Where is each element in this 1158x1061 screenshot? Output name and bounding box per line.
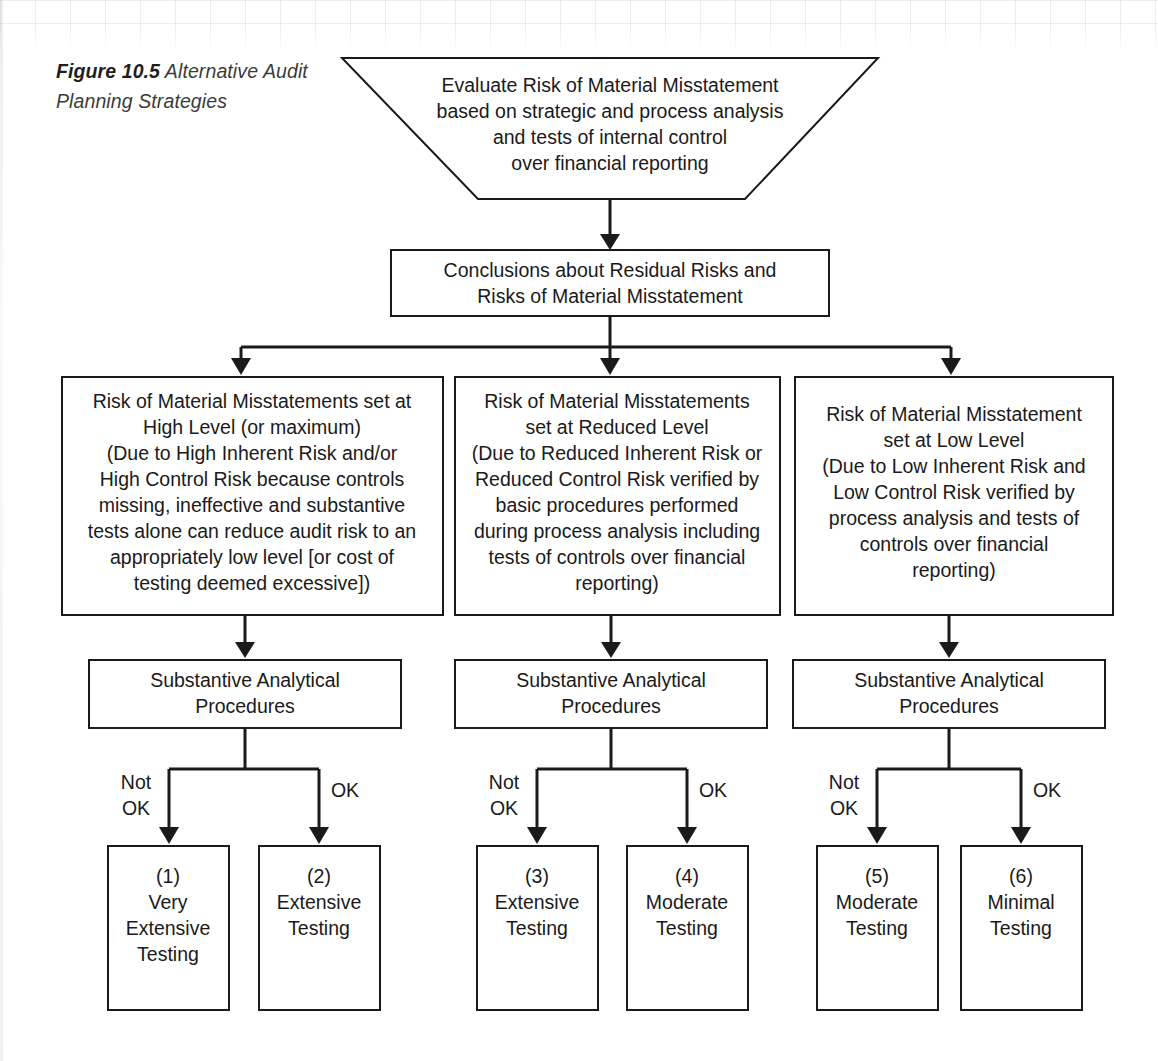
middle-not-ok-line-1: Not <box>489 771 520 793</box>
node-sap-right: Substantive Analytical Procedures <box>793 660 1105 728</box>
connector-sap-left-split <box>159 728 329 844</box>
outcome-6-line-3: Testing <box>990 917 1052 939</box>
arrowhead-down-icon <box>235 642 255 658</box>
arrowhead-down-icon <box>941 358 961 375</box>
node-risk-low: Risk of Material Misstatement set at Low… <box>795 377 1113 615</box>
branch-label-right-ok: OK <box>1033 779 1061 801</box>
outcome-2-number: (2) <box>307 865 331 887</box>
figure-canvas: Figure 10.5 Alternative Audit Planning S… <box>0 0 1158 1061</box>
connector-sap-right-split <box>867 728 1031 844</box>
risk-reduced-line-3: (Due to Reduced Inherent Risk or <box>472 442 763 464</box>
sap-left-line-2: Procedures <box>195 695 295 717</box>
risk-low-line-3: (Due to Low Inherent Risk and <box>822 455 1085 477</box>
connector-risk-high-to-sap-left <box>235 615 255 658</box>
arrowhead-down-icon <box>527 827 547 844</box>
sap-left-line-1: Substantive Analytical <box>150 669 340 691</box>
arrowhead-down-icon <box>867 827 887 844</box>
node-evaluate-risk: Evaluate Risk of Material Misstatement b… <box>342 58 878 199</box>
branch-label-middle-not-ok: Not OK <box>489 771 520 819</box>
branch-label-left-not-ok: Not OK <box>121 771 152 819</box>
branch-label-middle-ok: OK <box>699 779 727 801</box>
outcome-1-line-4: Testing <box>137 943 199 965</box>
risk-reduced-line-4: Reduced Control Risk verified by <box>475 468 759 490</box>
node-sap-left: Substantive Analytical Procedures <box>89 660 401 728</box>
risk-high-line-1: Risk of Material Misstatements set at <box>93 390 412 412</box>
connector-risk-low-to-sap-right <box>939 615 959 658</box>
conclusions-line-2: Risks of Material Misstatement <box>477 285 743 307</box>
branch-label-right-not-ok: Not OK <box>829 771 860 819</box>
arrowhead-down-icon <box>600 358 620 375</box>
node-outcome-4: (4) Moderate Testing <box>627 846 748 1010</box>
middle-not-ok-line-2: OK <box>490 797 518 819</box>
arrowhead-down-icon <box>600 234 620 250</box>
risk-high-line-6: tests alone can reduce audit risk to an <box>88 520 416 542</box>
outcome-1-number: (1) <box>156 865 180 887</box>
connector-sap-middle-split <box>527 728 697 844</box>
arrowhead-down-icon <box>601 642 621 658</box>
branch-label-left-ok: OK <box>331 779 359 801</box>
right-not-ok-line-1: Not <box>829 771 860 793</box>
risk-reduced-line-2: set at Reduced Level <box>525 416 708 438</box>
connector-risk-reduced-to-sap-middle <box>601 615 621 658</box>
risk-high-line-5: missing, ineffective and substantive <box>99 494 405 516</box>
risk-reduced-line-7: tests of controls over financial <box>489 546 746 568</box>
node-outcome-5: (5) Moderate Testing <box>817 846 938 1010</box>
evaluate-risk-line-2: based on strategic and process analysis <box>437 100 784 122</box>
risk-reduced-line-1: Risk of Material Misstatements <box>484 390 750 412</box>
risk-low-line-7: reporting) <box>912 559 995 581</box>
sap-middle-line-1: Substantive Analytical <box>516 669 706 691</box>
outcome-2-line-2: Extensive <box>277 891 362 913</box>
outcome-3-number: (3) <box>525 865 549 887</box>
risk-high-line-7: appropriately low level [or cost of <box>110 546 395 568</box>
risk-low-line-4: Low Control Risk verified by <box>833 481 1075 503</box>
flowchart-svg: Evaluate Risk of Material Misstatement b… <box>0 0 1158 1061</box>
risk-low-line-6: controls over financial <box>860 533 1049 555</box>
risk-low-line-5: process analysis and tests of <box>829 507 1080 529</box>
sap-right-line-1: Substantive Analytical <box>854 669 1044 691</box>
outcome-2-line-3: Testing <box>288 917 350 939</box>
outcome-6-line-2: Minimal <box>987 891 1054 913</box>
arrowhead-down-icon <box>1011 827 1031 844</box>
node-risk-high: Risk of Material Misstatements set at Hi… <box>62 377 443 615</box>
risk-high-line-4: High Control Risk because controls <box>100 468 405 490</box>
evaluate-risk-line-3: and tests of internal control <box>493 126 727 148</box>
outcome-4-line-2: Moderate <box>646 891 728 913</box>
node-sap-middle: Substantive Analytical Procedures <box>455 660 767 728</box>
outcome-4-number: (4) <box>675 865 699 887</box>
conclusions-line-1: Conclusions about Residual Risks and <box>444 259 777 281</box>
outcome-6-number: (6) <box>1009 865 1033 887</box>
outcome-3-line-3: Testing <box>506 917 568 939</box>
arrowhead-down-icon <box>939 642 959 658</box>
outcome-5-line-3: Testing <box>846 917 908 939</box>
risk-reduced-line-5: basic procedures performed <box>496 494 739 516</box>
sap-middle-line-2: Procedures <box>561 695 661 717</box>
risk-reduced-line-8: reporting) <box>575 572 658 594</box>
arrowhead-down-icon <box>159 827 179 844</box>
node-conclusions: Conclusions about Residual Risks and Ris… <box>391 250 829 316</box>
arrowhead-down-icon <box>309 827 329 844</box>
outcome-3-line-2: Extensive <box>495 891 580 913</box>
connector-evaluate-to-conclusions <box>600 199 620 250</box>
outcome-5-line-2: Moderate <box>836 891 918 913</box>
node-outcome-1: (1) Very Extensive Testing <box>108 846 229 1010</box>
left-not-ok-line-1: Not <box>121 771 152 793</box>
risk-high-line-2: High Level (or maximum) <box>143 416 361 438</box>
evaluate-risk-line-4: over financial reporting <box>511 152 708 174</box>
risk-low-line-2: set at Low Level <box>884 429 1025 451</box>
arrowhead-down-icon <box>231 358 251 375</box>
outcome-4-line-3: Testing <box>656 917 718 939</box>
node-outcome-6: (6) Minimal Testing <box>961 846 1082 1010</box>
outcome-1-line-2: Very <box>148 891 187 913</box>
node-outcome-3: (3) Extensive Testing <box>477 846 598 1010</box>
outcome-1-line-3: Extensive <box>126 917 211 939</box>
risk-reduced-line-6: during process analysis including <box>474 520 760 542</box>
node-risk-reduced: Risk of Material Misstatements set at Re… <box>455 377 780 615</box>
connector-conclusions-three-way-split <box>231 316 961 375</box>
right-not-ok-line-2: OK <box>830 797 858 819</box>
sap-right-line-2: Procedures <box>899 695 999 717</box>
risk-low-line-1: Risk of Material Misstatement <box>826 403 1082 425</box>
arrowhead-down-icon <box>677 827 697 844</box>
risk-high-line-3: (Due to High Inherent Risk and/or <box>107 442 398 464</box>
node-outcome-2: (2) Extensive Testing <box>259 846 380 1010</box>
evaluate-risk-line-1: Evaluate Risk of Material Misstatement <box>441 74 779 96</box>
